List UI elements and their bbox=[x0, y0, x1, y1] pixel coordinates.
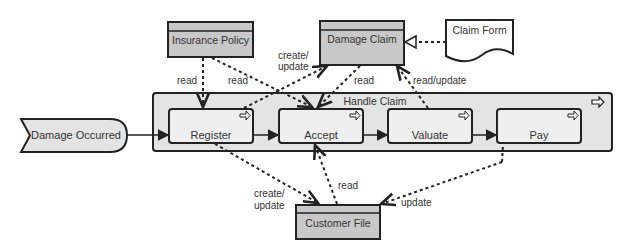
object-label-customer-file: Customer File bbox=[296, 217, 380, 229]
access-pay-file bbox=[381, 162, 502, 204]
object-label-insurance-policy: Insurance Policy bbox=[168, 34, 253, 46]
object-label-damage-claim: Damage Claim bbox=[320, 33, 404, 45]
rel-label-claim-accept: read bbox=[354, 75, 374, 86]
group-label: Handle Claim bbox=[340, 95, 410, 107]
rel-label-register-file-2: update bbox=[254, 200, 285, 211]
rel-label-register-claim-1: create/ bbox=[278, 50, 309, 61]
process-label-accept: Accept bbox=[279, 129, 363, 141]
process-label-register: Register bbox=[169, 129, 253, 141]
rel-label-accept-file: read bbox=[338, 180, 358, 191]
access-file-accept bbox=[315, 145, 337, 204]
rel-label-pay-file: update bbox=[401, 197, 432, 208]
representation-label-claim-form: Claim Form bbox=[446, 24, 513, 36]
rel-label-policy-accept: read bbox=[228, 75, 248, 86]
process-label-valuate: Valuate bbox=[388, 129, 472, 141]
process-label-pay: Pay bbox=[497, 129, 581, 141]
diagram-canvas bbox=[0, 0, 626, 251]
event-label: Damage Occurred bbox=[30, 129, 122, 141]
rel-label-claim-valuate: read/update bbox=[413, 75, 466, 86]
rel-label-policy-register: read bbox=[177, 75, 197, 86]
rel-label-register-file-1: create/ bbox=[254, 188, 285, 199]
rel-label-register-claim-2: update bbox=[278, 61, 309, 72]
